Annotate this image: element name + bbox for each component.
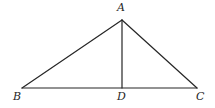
segment-ab — [22, 20, 122, 88]
vertex-label-c: C — [196, 91, 204, 102]
vertex-label-b: B — [13, 91, 21, 102]
segment-ac — [122, 20, 197, 88]
segment-group — [22, 20, 197, 88]
triangle-diagram-svg — [0, 0, 215, 108]
vertex-label-d: D — [117, 91, 126, 102]
vertex-label-a: A — [117, 2, 125, 13]
geometry-figure: A B D C — [0, 0, 215, 108]
